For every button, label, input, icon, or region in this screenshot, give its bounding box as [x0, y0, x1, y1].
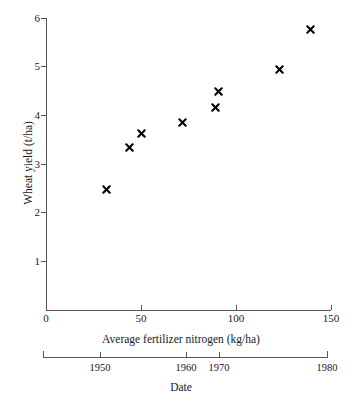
date-tick-1950 — [100, 352, 101, 357]
x-tick-100 — [236, 305, 237, 310]
date-tick-1980 — [327, 351, 328, 357]
x-ticklabel-100: 100 — [216, 313, 256, 324]
date-tick-1960 — [186, 352, 187, 357]
data-point — [178, 118, 187, 127]
y-tick-6 — [41, 18, 46, 19]
x-tick-150 — [331, 305, 332, 310]
x-tick-50 — [141, 305, 142, 310]
date-tick-1970 — [219, 352, 220, 357]
date-ticklabel-1980: 1980 — [307, 362, 347, 373]
y-axis-title: Wheat yield (t/ha) — [22, 88, 34, 238]
date-ticklabel-1950: 1950 — [80, 362, 120, 373]
y-tick-5 — [41, 66, 46, 67]
data-point — [125, 143, 134, 152]
data-point — [275, 65, 284, 74]
y-tick-2 — [41, 212, 46, 213]
data-point — [211, 103, 220, 112]
date-ticklabel-1970: 1970 — [199, 362, 239, 373]
scatter-chart-figure: 6 5 4 3 2 1 0 50 100 150 1950 1960 1970 … — [0, 0, 352, 409]
x-tick-0 — [46, 305, 47, 310]
data-point — [306, 25, 315, 34]
x-axis-line — [46, 310, 331, 311]
data-point — [214, 87, 223, 96]
x-ticklabel-150: 150 — [311, 313, 351, 324]
date-tick-start — [43, 351, 44, 357]
y-ticklabel-6: 6 — [20, 13, 40, 24]
y-ticklabel-1: 1 — [20, 256, 40, 267]
x-axis-title: Average fertilizer nitrogen (kg/ha) — [26, 333, 336, 345]
y-axis-line — [46, 18, 47, 311]
y-tick-3 — [41, 164, 46, 165]
data-point — [102, 185, 111, 194]
secondary-x-axis-title: Date — [26, 381, 336, 393]
y-tick-4 — [41, 115, 46, 116]
x-ticklabel-50: 50 — [121, 313, 161, 324]
y-ticklabel-5: 5 — [20, 61, 40, 72]
y-tick-1 — [41, 261, 46, 262]
data-point — [137, 129, 146, 138]
x-ticklabel-0: 0 — [26, 313, 66, 324]
secondary-date-axis-line — [43, 357, 328, 358]
